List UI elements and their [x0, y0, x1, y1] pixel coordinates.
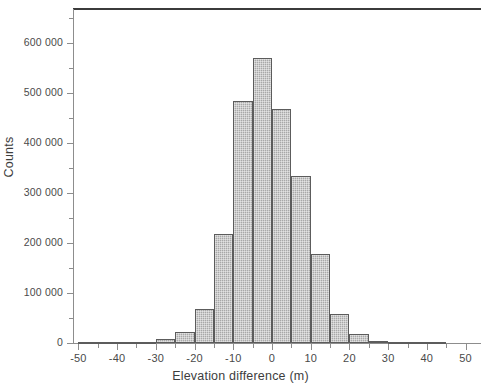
- y-axis-title: Counts: [2, 92, 16, 222]
- histogram-bar: [253, 58, 272, 343]
- y-axis-tick-label: 600 000: [0, 36, 63, 48]
- y-axis-tick: [67, 343, 73, 344]
- x-axis-minor-tick: [330, 344, 331, 348]
- x-axis-title: Elevation difference (m): [0, 369, 481, 383]
- x-axis-tick-label: 50: [459, 352, 472, 364]
- x-axis-tick-label: -50: [70, 352, 87, 364]
- histogram-bar: [311, 254, 330, 343]
- x-axis-tick-label: 40: [421, 352, 434, 364]
- y-axis-tick: [67, 43, 73, 44]
- x-axis-tick-label: 30: [382, 352, 395, 364]
- x-axis-tick-label: -20: [186, 352, 203, 364]
- x-axis-minor-tick: [98, 344, 99, 348]
- histogram-bar: [369, 341, 388, 344]
- x-axis-tick: [117, 344, 118, 350]
- x-axis-tick-label: 10: [304, 352, 317, 364]
- x-axis-tick: [388, 344, 389, 350]
- y-axis-minor-tick: [69, 18, 73, 19]
- histogram-bar: [156, 339, 175, 343]
- x-axis-minor-tick: [369, 344, 370, 348]
- y-axis-tick: [67, 93, 73, 94]
- histogram-bar: [98, 342, 117, 344]
- x-axis-tick-label: 0: [269, 352, 275, 364]
- histogram-bar: [272, 109, 291, 343]
- x-axis-tick: [349, 344, 350, 350]
- x-axis-minor-tick: [446, 344, 447, 348]
- x-axis-tick-label: -40: [109, 352, 126, 364]
- histogram-bar: [214, 234, 233, 344]
- y-axis-tick: [67, 293, 73, 294]
- x-axis-tick: [466, 344, 467, 350]
- histogram-figure: 0100 000200 000300 000400 000500 000600 …: [0, 0, 481, 386]
- histogram-bar: [117, 342, 136, 344]
- histogram-bar: [349, 334, 368, 343]
- y-axis-minor-tick: [69, 168, 73, 169]
- x-axis-tick-label: 20: [343, 352, 356, 364]
- histogram-bar: [330, 314, 349, 343]
- histogram-bar: [388, 342, 407, 344]
- y-axis-minor-tick: [69, 118, 73, 119]
- histogram-bar: [408, 342, 427, 344]
- x-axis-tick-label: -10: [225, 352, 242, 364]
- y-axis-minor-tick: [69, 318, 73, 319]
- histogram-bar: [233, 101, 252, 344]
- y-axis-tick-label: 200 000: [0, 236, 63, 248]
- x-axis-minor-tick: [136, 344, 137, 348]
- y-axis-minor-tick: [69, 268, 73, 269]
- y-axis-minor-tick: [69, 218, 73, 219]
- x-axis-tick: [272, 344, 273, 350]
- x-axis-tick: [156, 344, 157, 350]
- y-axis-tick: [67, 243, 73, 244]
- histogram-bar: [78, 342, 97, 344]
- x-axis-tick: [233, 344, 234, 350]
- y-axis-minor-tick: [69, 68, 73, 69]
- x-axis-minor-tick: [253, 344, 254, 348]
- histogram-bar: [427, 342, 446, 344]
- histogram-bar: [136, 342, 155, 344]
- histogram-bar: [195, 309, 214, 343]
- x-axis-minor-tick: [175, 344, 176, 348]
- x-axis-tick: [427, 344, 428, 350]
- y-axis-tick-label: 100 000: [0, 286, 63, 298]
- histogram-bar: [175, 332, 194, 343]
- x-axis-minor-tick: [291, 344, 292, 348]
- histogram-bar: [291, 176, 310, 343]
- x-axis-tick: [195, 344, 196, 350]
- x-axis-minor-tick: [408, 344, 409, 348]
- x-axis-tick: [78, 344, 79, 350]
- y-axis-tick-label: 0: [0, 336, 63, 348]
- y-axis-tick: [67, 143, 73, 144]
- y-axis-tick: [67, 193, 73, 194]
- x-axis-tick: [311, 344, 312, 350]
- x-axis-minor-tick: [214, 344, 215, 348]
- x-axis-tick-label: -30: [148, 352, 165, 364]
